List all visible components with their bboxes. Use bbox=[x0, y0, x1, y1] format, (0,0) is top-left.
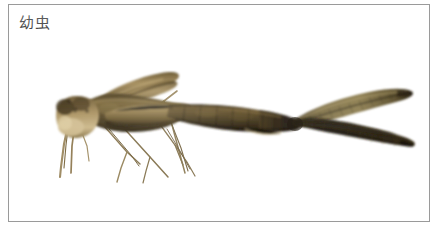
plate-frame: 幼虫 bbox=[8, 4, 430, 222]
lamella-base-joint bbox=[287, 117, 303, 131]
figure-root: 幼虫 bbox=[0, 0, 440, 231]
damselfly-larva-illustration bbox=[9, 5, 430, 221]
figure-caption: 幼虫 bbox=[19, 14, 50, 31]
specimen-photo bbox=[9, 5, 430, 221]
